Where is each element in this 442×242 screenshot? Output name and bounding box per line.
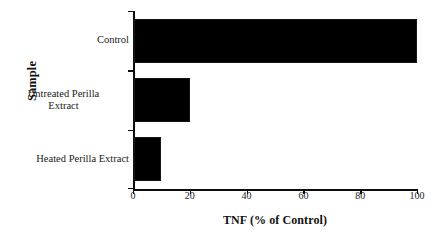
category-label-line: Extract (0, 100, 127, 113)
x-axis-tick-label: 40 (227, 190, 267, 201)
category-label-line: Control (0, 34, 129, 47)
bar (134, 137, 161, 181)
bar (134, 19, 417, 63)
x-axis-tick-label: 100 (397, 190, 437, 201)
y-axis-tick (128, 130, 133, 131)
category-label-heated-perilla-extract: Heated Perilla Extract (0, 153, 129, 166)
bar-chart-figure: Sample Control Untreated PerillaExtract … (0, 0, 442, 242)
category-axis-labels: Control Untreated PerillaExtract Heated … (0, 11, 129, 189)
plot-area (133, 11, 417, 189)
x-axis-tick-label: 60 (283, 190, 323, 201)
category-label-control: Control (0, 34, 129, 47)
bar (134, 78, 190, 122)
x-axis-tick-label: 80 (340, 190, 380, 201)
category-label-line: Heated Perilla Extract (0, 153, 129, 166)
x-axis-title: TNF (% of Control) (133, 213, 417, 228)
y-axis-tick (128, 70, 133, 71)
x-axis-tick-label: 20 (170, 190, 210, 201)
x-axis-tick-label: 0 (113, 190, 153, 201)
category-label-line: Untreated Perilla (0, 88, 127, 101)
y-axis-tick (128, 11, 133, 12)
category-label-untreated-perilla-extract: Untreated PerillaExtract (0, 88, 129, 113)
